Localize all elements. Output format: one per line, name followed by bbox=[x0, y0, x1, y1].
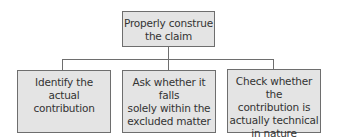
child-node-technical-nature: Check whether the contribution is actual… bbox=[227, 69, 321, 133]
connector-middle-vertical bbox=[168, 59, 169, 70]
connector-left-vertical bbox=[62, 59, 63, 70]
root-node-line2: the claim bbox=[123, 30, 214, 43]
connector-root-vertical bbox=[168, 46, 169, 59]
child-node-line: Identify the actual bbox=[18, 76, 110, 102]
child-node-excluded-matter: Ask whether it falls solely within the e… bbox=[122, 70, 216, 133]
child-node-line: Check whether the bbox=[228, 75, 320, 101]
root-node-line1: Properly construe bbox=[123, 17, 214, 30]
child-node-identify-contribution: Identify the actual contribution bbox=[17, 70, 111, 133]
child-node-line: Ask whether it falls bbox=[123, 76, 215, 102]
root-node: Properly construe the claim bbox=[122, 11, 215, 47]
child-node-line: contribution bbox=[18, 102, 110, 115]
child-node-line: excluded matter bbox=[123, 115, 215, 128]
child-node-line: in nature bbox=[228, 127, 320, 140]
child-node-line: contribution is bbox=[228, 101, 320, 114]
child-node-line: actually technical bbox=[228, 114, 320, 127]
child-node-line: solely within the bbox=[123, 102, 215, 115]
